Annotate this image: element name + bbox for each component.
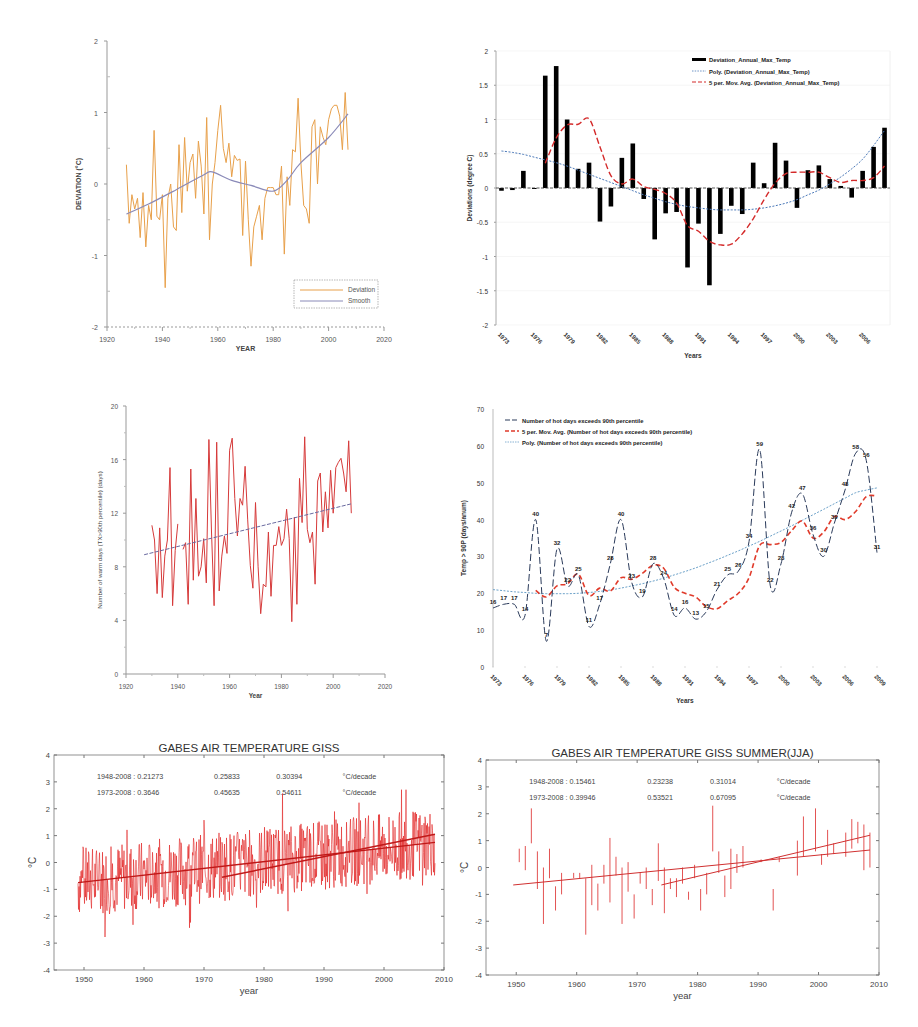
data-label: 28 (607, 555, 614, 561)
x-tick-label: 1980 (274, 683, 289, 690)
data-label: 17 (596, 595, 603, 601)
x-tick-label: 1973 (497, 331, 511, 345)
data-label: 31 (874, 544, 881, 550)
y-tick-label: -0.5 (477, 219, 489, 226)
y-axis-label: °C (27, 857, 38, 868)
bar (806, 170, 811, 188)
x-axis-label: YEAR (236, 345, 255, 352)
x-tick-label: 2010 (435, 975, 453, 984)
bar (729, 188, 734, 206)
y-axis-label: Temp > 90P (days/anum) (460, 500, 468, 576)
data-label: 40 (532, 511, 539, 517)
deviation-line (126, 93, 348, 288)
x-tick-label: 1920 (99, 336, 115, 343)
legend: Deviation_Annual_Max_TempPoly. (Deviatio… (692, 57, 840, 86)
data-label: 34 (746, 533, 753, 539)
x-tick-label: 1982 (585, 673, 599, 687)
legend-label: Number of hot days exceeds 90th percenti… (522, 418, 644, 424)
chart-annual-max-temp-deviation: 21.510.50-0.5-1-1.5-21973197619791982198… (466, 48, 890, 359)
bar (521, 171, 526, 188)
y-tick-label: 60 (477, 443, 485, 450)
bar (860, 171, 865, 188)
y-tick-label: 4 (478, 756, 482, 765)
y-tick-label: 3 (478, 783, 482, 792)
y-axis-label: Deviations (degree C) (466, 155, 474, 222)
y-tick-label: 8 (114, 564, 118, 571)
y-tick-label: 4 (46, 751, 50, 760)
trend-annotation: 1973-2008 : 0.39946 (529, 793, 595, 802)
legend-label: Smooth (348, 297, 371, 304)
x-tick-label: 2000 (792, 331, 806, 345)
chart-gabes-giss: GABES AIR TEMPERATURE GISS43210-1-2-3-41… (27, 742, 453, 996)
y-tick-label: 2 (94, 38, 98, 45)
y-tick-label: -1 (43, 885, 50, 894)
trend-annotation: 0.45635 (214, 788, 240, 797)
x-tick-label: 1920 (119, 683, 134, 690)
warm-days-line (152, 468, 178, 606)
chart-warm-days: 201612840192019401960198020002020YearNum… (96, 403, 393, 699)
bar (576, 169, 581, 188)
trend-annotation: 0.31014 (710, 777, 736, 786)
x-tick-label: 1960 (568, 980, 586, 989)
figure-canvas: 210-1-2192019401960198020002020YEARDEVIA… (0, 0, 918, 1027)
bar (882, 128, 887, 188)
y-tick-label: 40 (477, 517, 485, 524)
bar (849, 188, 854, 198)
y-tick-label: 0 (480, 664, 484, 671)
trend-annotation: 0.25833 (214, 772, 240, 781)
data-label: 17 (511, 595, 518, 601)
x-tick-label: 1997 (745, 673, 759, 687)
y-tick-label: -1 (482, 254, 488, 261)
x-tick-label: 1970 (628, 980, 646, 989)
y-tick-label: -1.5 (477, 288, 489, 295)
data-label: 15 (703, 603, 710, 609)
x-tick-label: 2003 (809, 673, 823, 687)
x-tick-label: 1985 (617, 673, 631, 687)
bar (828, 179, 833, 188)
bar (795, 188, 800, 208)
data-label: 22 (767, 577, 774, 583)
x-tick-label: 1988 (649, 673, 663, 687)
x-tick-label: 2000 (777, 673, 791, 687)
bar (598, 188, 603, 222)
data-label: 26 (735, 562, 742, 568)
y-tick-label: 30 (477, 553, 485, 560)
x-tick-label: 1982 (595, 331, 609, 345)
x-tick-label: 2006 (841, 673, 855, 687)
trend-annotation: 0.67095 (710, 793, 736, 802)
y-tick-label: 1 (478, 837, 482, 846)
data-label: 42 (788, 503, 795, 509)
data-label: 16 (682, 599, 689, 605)
x-tick-label: 2000 (326, 683, 341, 690)
y-tick-label: 2 (478, 810, 482, 819)
y-tick-label: 10 (477, 627, 485, 634)
y-tick-label: -3 (43, 939, 50, 948)
x-tick-label: 1980 (689, 980, 707, 989)
data-label: 25 (724, 566, 731, 572)
x-tick-label: 1979 (562, 331, 576, 345)
bar (751, 163, 756, 188)
x-tick-label: 1950 (75, 975, 93, 984)
legend: DeviationSmooth (294, 280, 378, 308)
x-tick-label: 1994 (713, 673, 727, 687)
x-tick-label: 2006 (858, 331, 872, 345)
warm-days-line (183, 437, 351, 622)
bar (609, 188, 614, 206)
x-tick-label: 2000 (810, 980, 828, 989)
data-label: 14 (522, 606, 529, 612)
y-tick-label: 3 (46, 778, 50, 787)
y-tick-label: 1 (94, 110, 98, 117)
x-tick-label: 1960 (222, 683, 237, 690)
trend-annotation: 1973-2008 : 0.3646 (97, 788, 159, 797)
data-label: 19 (639, 588, 646, 594)
data-label: 17 (500, 595, 507, 601)
data-label: 14 (671, 606, 678, 612)
x-tick-label: 1960 (210, 336, 226, 343)
trend-annotation: 0.54611 (276, 788, 301, 797)
trend-annotation: °C/decade (343, 772, 377, 781)
legend-label: Deviation_Annual_Max_Temp (709, 57, 791, 63)
x-tick-label: 2020 (376, 336, 392, 343)
x-tick-label: 1991 (694, 331, 708, 345)
bar (696, 188, 701, 224)
y-tick-label: -1 (475, 890, 482, 899)
